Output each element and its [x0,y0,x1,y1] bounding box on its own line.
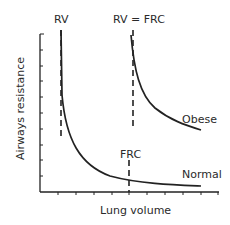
y-axis-label: Airways resistance [14,57,27,160]
obese-label: Obese [182,113,217,126]
normal-label: Normal [182,168,222,181]
rv-label: RV [54,13,69,26]
airway-resistance-diagram: RV RV = FRC FRC Obese Normal Lung volume… [0,0,230,225]
x-axis-label: Lung volume [100,204,171,217]
rv-eq-frc-label: RV = FRC [113,13,165,26]
normal-curve [61,30,201,186]
frc-label: FRC [120,148,141,161]
